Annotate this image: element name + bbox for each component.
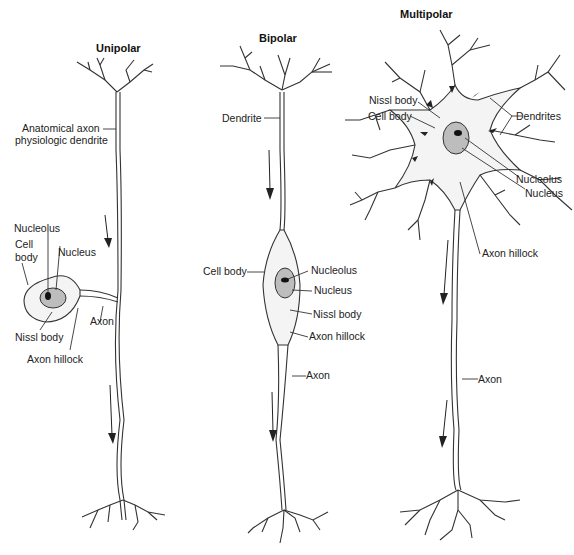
label-axon: Axon [306, 369, 330, 381]
unipolar-neuron: Unipolar [14, 42, 165, 530]
label-axon: Axon [90, 315, 114, 327]
bipolar-dendrite-tree [220, 46, 332, 90]
bipolar-arrow-upper [269, 150, 270, 190]
unipolar-axon-terminals [82, 500, 165, 530]
label-nucleolus: Nucleolus [311, 264, 357, 276]
bipolar-axon-terminals [248, 510, 328, 543]
multipolar-axon-terminals [400, 490, 520, 540]
label-nucleolus: Nucleolus [516, 173, 562, 185]
multipolar-arrow-lower [443, 400, 447, 438]
multipolar-title: Multipolar [400, 8, 453, 20]
label-cell-body: Cell body [203, 265, 248, 277]
label-nissl-body: Nissl body [369, 94, 418, 106]
unipolar-arrow-upper [105, 215, 108, 240]
label-physiologic-dendrite: physiologic dendrite [15, 134, 108, 146]
unipolar-arrow-lower [110, 385, 112, 435]
label-dendrite: Dendrite [222, 112, 262, 124]
neuron-types-diagram: Unipolar [0, 0, 574, 555]
arrow-head-icon [472, 92, 480, 98]
label-nucleus: Nucleus [314, 284, 352, 296]
label-axon-hillock: Axon hillock [27, 353, 84, 365]
label-nucleolus: Nucleolus [14, 222, 60, 234]
unipolar-nucleus [40, 288, 66, 308]
multipolar-nucleolus [454, 130, 462, 136]
unipolar-dendrite-tree [77, 58, 153, 92]
unipolar-nucleolus [45, 292, 51, 300]
multipolar-arrow-upper [444, 240, 448, 295]
arrow-head-icon [439, 436, 447, 448]
multipolar-axon [451, 210, 456, 490]
arrow-head-icon [440, 293, 448, 305]
label-nissl-body: Nissl body [15, 331, 64, 343]
label-anatomical-axon: Anatomical axon [22, 122, 100, 134]
label-nucleus: Nucleus [58, 246, 96, 258]
arrow-head-icon [104, 238, 112, 248]
label-dendrites: Dendrites [516, 110, 561, 122]
bipolar-dendrite [280, 92, 281, 230]
bipolar-nucleolus [281, 278, 289, 283]
label-axon-hillock: Axon hillock [482, 247, 539, 259]
label-axon-hillock: Axon hillock [309, 330, 366, 342]
bipolar-neuron: Bipolar [203, 32, 366, 543]
bipolar-nucleus [275, 268, 295, 298]
arrow-head-icon [426, 100, 433, 108]
label-nucleus: Nucleus [525, 187, 563, 199]
multipolar-neuron: Multipolar [345, 8, 572, 540]
label-cell-body-line1: Cell [15, 238, 33, 250]
bipolar-title: Bipolar [259, 32, 298, 44]
unipolar-title: Unipolar [96, 42, 141, 54]
label-cell-body: Cell body [368, 110, 413, 122]
bipolar-arrow-lower [272, 392, 273, 432]
arrow-head-icon [108, 433, 116, 444]
label-axon: Axon [478, 373, 502, 385]
label-cell-body-line2: body [15, 251, 39, 263]
arrow-head-icon [266, 188, 274, 200]
label-nissl-body: Nissl body [313, 308, 362, 320]
